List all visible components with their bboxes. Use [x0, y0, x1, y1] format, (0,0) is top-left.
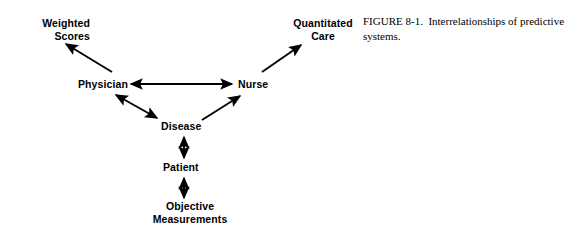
node-physician: Physician — [78, 78, 128, 91]
arrow-physician-to-weighted-scores — [66, 44, 112, 72]
arrow-disease-to-nurse — [202, 96, 240, 120]
arrow-nurse-to-quantitated-care — [262, 45, 301, 72]
node-weighted-scores: Weighted Scores — [10, 17, 90, 43]
figure-page: Weighted Scores Quantitated Care Physici… — [0, 0, 578, 230]
figure-caption-label: FIGURE 8-1. — [363, 15, 423, 27]
node-patient: Patient — [163, 161, 199, 174]
arrow-physician-disease — [116, 95, 157, 118]
node-nurse: Nurse — [238, 78, 268, 91]
node-objective-measurements: Objective Measurements — [130, 200, 250, 226]
node-disease: Disease — [161, 120, 201, 133]
figure-caption: FIGURE 8-1. Interrelationships of predic… — [363, 14, 571, 43]
node-quantitated-care: Quantitated Care — [282, 17, 364, 43]
